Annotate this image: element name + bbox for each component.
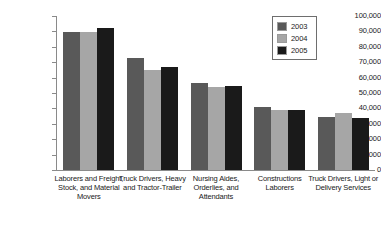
bar-2003 xyxy=(191,83,208,170)
bar-2003 xyxy=(318,117,335,170)
bar-2004 xyxy=(208,87,225,170)
legend-label-2003: 2003 xyxy=(291,22,307,31)
bar-group xyxy=(318,16,369,170)
x-axis-line xyxy=(56,170,375,171)
x-axis-label: Laborers and Freight, Stock, and Materia… xyxy=(53,174,125,202)
y-axis-tick xyxy=(52,170,57,171)
x-axis-label: Truck Drivers, Heavy and Tractor-Trailer xyxy=(117,174,189,192)
legend-item: 2003 xyxy=(277,20,313,32)
legend: 2003 2004 2005 xyxy=(272,16,317,60)
legend-item: 2004 xyxy=(277,32,313,44)
bar-2005 xyxy=(161,67,178,170)
legend-label-2005: 2005 xyxy=(291,46,307,55)
bar-2005 xyxy=(97,28,114,170)
bar-2005 xyxy=(288,110,305,170)
legend-swatch-2003 xyxy=(277,22,287,31)
x-axis-label: Truck Drivers, Light or Delivery Service… xyxy=(307,174,379,192)
bar-2003 xyxy=(63,32,80,170)
bar-group xyxy=(191,16,242,170)
bar-2004 xyxy=(144,70,161,170)
bar-2004 xyxy=(80,32,97,170)
legend-item: 2005 xyxy=(277,44,313,56)
plot-area xyxy=(57,16,375,170)
x-axis-label: Nursing Aides, Orderlies, and Attendants xyxy=(180,174,252,202)
bar-2004 xyxy=(335,113,352,170)
legend-swatch-2005 xyxy=(277,46,287,55)
bar-2003 xyxy=(254,107,271,170)
bar-2005 xyxy=(352,118,369,170)
legend-swatch-2004 xyxy=(277,34,287,43)
x-axis-label: Constructions Laborers xyxy=(244,174,316,192)
bar-group xyxy=(127,16,178,170)
bar-group xyxy=(63,16,114,170)
bar-2004 xyxy=(271,110,288,170)
bar-chart: 100,00090,00080,00070,00060,00050,00040,… xyxy=(0,0,381,235)
legend-label-2004: 2004 xyxy=(291,34,307,43)
bar-2005 xyxy=(225,86,242,170)
bar-2003 xyxy=(127,58,144,170)
